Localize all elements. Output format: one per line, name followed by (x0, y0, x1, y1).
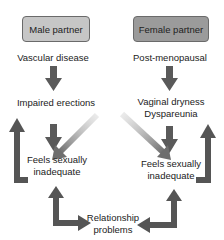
female-symptom-text: Vaginal dryness Dyspareunia (138, 96, 205, 119)
male-feeling-line2: inadequate (27, 166, 87, 178)
female-feeling-line1: Feels sexually (141, 158, 201, 170)
outcome-line2: problems (87, 224, 139, 236)
male-symptom-text: Impaired erections (17, 97, 95, 109)
outcome-line1: Relationship (87, 212, 139, 224)
arrow-layer (0, 0, 224, 240)
female-feeling-line2: inadequate (141, 170, 201, 182)
bidirectional-elbow-arrow-icon (137, 189, 182, 233)
down-arrow-icon (45, 66, 62, 91)
loop-up-arrow-icon (9, 118, 28, 180)
female-cause-text: Post-menopausal (133, 52, 207, 64)
down-arrow-icon (45, 124, 62, 151)
male-feeling-line1: Feels sexually (27, 154, 87, 166)
bidirectional-elbow-arrow-icon (48, 186, 91, 231)
cross-arrow-icon (122, 114, 171, 160)
down-arrow-icon (161, 66, 178, 91)
relationship-problems-text: Relationship problems (87, 212, 139, 235)
female-symptom-line2: Dyspareunia (138, 108, 205, 120)
male-feeling-text: Feels sexually inadequate (27, 154, 87, 177)
male-cause-text: Vascular disease (17, 52, 89, 64)
female-symptom-line1: Vaginal dryness (138, 96, 205, 108)
female-feeling-text: Feels sexually inadequate (141, 158, 201, 181)
